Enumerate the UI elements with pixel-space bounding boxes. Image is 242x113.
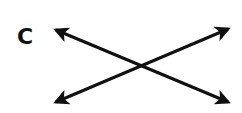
diagram-canvas: C (0, 0, 242, 113)
crossing-arrows-diagram (0, 0, 242, 113)
